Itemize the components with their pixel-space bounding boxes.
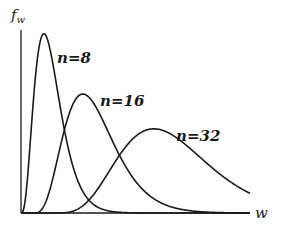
density-chart: fw w n=8n=16n=32 bbox=[0, 0, 281, 226]
series-label-n-16: n=16 bbox=[100, 92, 145, 110]
y-axis-label: fw bbox=[10, 6, 26, 25]
series-label-n-32: n=32 bbox=[176, 127, 220, 145]
series-curve-n-16 bbox=[21, 94, 250, 213]
series-curves bbox=[21, 34, 250, 213]
x-axis-label: w bbox=[255, 204, 268, 222]
series-labels: n=8n=16n=32 bbox=[57, 49, 220, 145]
series-label-n-8: n=8 bbox=[57, 49, 91, 67]
series-curve-n-8 bbox=[21, 34, 250, 213]
